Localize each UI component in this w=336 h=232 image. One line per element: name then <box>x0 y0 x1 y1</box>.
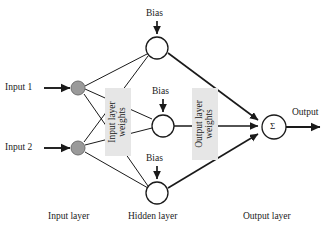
output-layer-weights-line1: Output layer <box>194 100 204 148</box>
output-layer-weights-line2: weights <box>204 109 214 139</box>
layer-caption-hidden: Hidden layer <box>128 212 177 222</box>
layer-caption-input: Input layer <box>48 212 89 222</box>
bias-label-top: Bias <box>146 9 163 19</box>
bias-label-bottom: Bias <box>146 154 163 164</box>
output-layer-weights-box: Output layer weights <box>192 88 218 160</box>
neural-network-diagram: Σ Input 1 Input 2 Bias Bias Bias Input l… <box>0 0 336 232</box>
hidden-node-middle <box>152 115 174 137</box>
output-label: Output <box>292 108 318 118</box>
layer-caption-output: Output layer <box>243 212 291 222</box>
input-1-label: Input 1 <box>5 83 32 93</box>
input-node-2 <box>71 141 85 155</box>
input-layer-weights-line1: Input layer <box>107 101 117 142</box>
sigma-symbol: Σ <box>270 121 275 131</box>
input-2-label: Input 2 <box>5 143 32 153</box>
edge-input2-hiddenbot <box>85 152 148 188</box>
input-layer-weights-line2: weights <box>117 107 127 137</box>
output-layer-weights-text: Output layer weights <box>195 100 215 148</box>
input-node-1 <box>71 81 85 95</box>
bias-label-middle: Bias <box>152 87 169 97</box>
input-layer-weights-box: Input layer weights <box>105 88 131 156</box>
hidden-node-bottom <box>146 182 168 204</box>
hidden-node-top <box>146 37 168 59</box>
diagram-canvas <box>0 0 336 232</box>
input-layer-weights-text: Input layer weights <box>108 101 128 142</box>
